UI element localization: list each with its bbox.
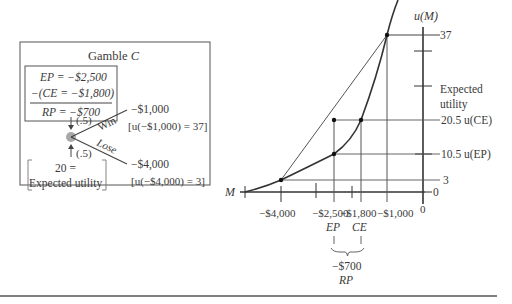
y-label-37: 37 <box>440 29 452 41</box>
utility-curve <box>245 0 398 192</box>
rp-label: RP <box>338 274 353 286</box>
y-axis-label: u(M) <box>414 9 438 23</box>
point-ep <box>332 152 336 156</box>
win-utility: [u(−$1,000) = 37] <box>128 120 207 133</box>
point-ce <box>359 118 363 122</box>
rp-value: −$700 <box>332 260 362 272</box>
ep-label: EP <box>325 221 340 233</box>
ce-label: CE <box>352 221 367 233</box>
arrowhead-down-icon <box>68 125 74 130</box>
x-label-4000: −$4,000 <box>259 207 296 219</box>
ce-line: −(CE = −$1,800) <box>31 87 114 100</box>
prob-win: (.5) <box>76 114 92 127</box>
point-m1000 <box>385 33 389 37</box>
prob-lose: (.5) <box>76 147 92 160</box>
y-label-uep: 10.5 u(EP) <box>441 148 491 161</box>
expected-value: 20 = <box>55 162 76 174</box>
lose-outcome: −$4,000 <box>131 158 169 171</box>
win-outcome: −$1,000 <box>131 103 169 116</box>
point-m4000 <box>279 178 283 182</box>
y-label-expected-2: utility <box>440 98 468 111</box>
x-label-0: 0 <box>420 203 426 215</box>
x-axis-label: M <box>224 185 236 199</box>
lose-label: Lose <box>94 136 119 156</box>
rp-brace <box>331 248 364 256</box>
y-label-uce: 20.5 u(CE) <box>441 114 492 127</box>
ep-line: EP = −$2,500 <box>39 71 107 84</box>
y-label-expected-1: Expected <box>440 83 483 96</box>
gamble-title: Gamble C <box>88 49 140 63</box>
expected-label: Expected utility <box>29 177 102 190</box>
x-label-1000: −$1,000 <box>377 207 414 219</box>
arrowhead-up-icon <box>68 144 74 149</box>
y-label-3: 3 <box>443 174 449 186</box>
x-label-1800: −$1,800 <box>340 207 377 219</box>
diagram-canvas: Gamble C EP = −$2,500 −(CE = −$1,800) RP… <box>0 0 512 304</box>
y-label-0: 0 <box>433 186 439 198</box>
point-expected-utility <box>332 118 336 122</box>
lose-utility: [u(−$4,000) = 3] <box>131 175 205 188</box>
